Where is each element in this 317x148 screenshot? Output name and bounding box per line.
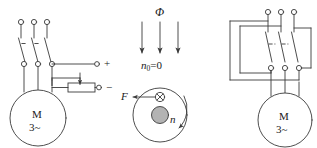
rotation-speed-label: n (170, 114, 176, 125)
left-motor-leads (24, 67, 52, 92)
synchronous-speed-label: n0=0 (141, 60, 162, 72)
right-motor-label-top: M (279, 111, 289, 122)
right-switch-assembly (265, 9, 301, 70)
flux-arrows (142, 22, 178, 53)
speed-equals: =0 (150, 59, 162, 71)
left-switch-assembly (18, 19, 54, 66)
flux-label: Φ (155, 6, 164, 18)
rotor-illustration (133, 88, 187, 142)
negative-terminal-label: − (106, 82, 112, 93)
left-motor-label-top: M (32, 109, 42, 120)
left-motor-label-bottom: 3~ (29, 122, 40, 133)
force-label: F (121, 91, 128, 102)
diagram-canvas: M 3~ + − Φ n0=0 F n M 3~ (0, 0, 317, 148)
phase-reversal-wiring (230, 21, 311, 80)
diagram-vector-layer (0, 0, 317, 148)
right-motor-label-bottom: 3~ (276, 124, 287, 135)
right-motor-leads (271, 71, 299, 96)
positive-terminal-label: + (104, 58, 110, 69)
rheostat-branch (52, 62, 101, 92)
